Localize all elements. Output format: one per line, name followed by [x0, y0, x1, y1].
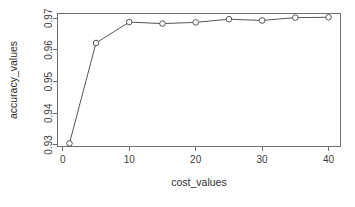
data-point: [226, 16, 232, 22]
data-point: [326, 14, 332, 20]
y-tick-label: 0.96: [43, 40, 54, 60]
y-tick-label: 0.95: [43, 71, 54, 91]
y-tick-label: 0.97: [43, 8, 54, 28]
y-axis-title: accuracy_values: [7, 41, 19, 119]
data-point: [160, 21, 166, 27]
y-tick-label: 0.93: [43, 135, 54, 155]
x-tick-label: 10: [124, 154, 136, 165]
x-tick-label: 30: [257, 154, 269, 165]
x-tick-label: 0: [60, 154, 66, 165]
data-point: [193, 20, 199, 26]
chart-container: 010203040 0.930.940.950.960.97 cost_valu…: [0, 0, 355, 207]
data-point: [67, 141, 73, 147]
data-point: [293, 15, 299, 21]
data-point: [126, 19, 132, 25]
data-point: [93, 40, 99, 46]
y-tick-label: 0.94: [43, 103, 54, 123]
accuracy-vs-cost-line-chart: 010203040 0.930.940.950.960.97 cost_valu…: [0, 0, 355, 207]
data-point: [259, 18, 265, 24]
x-tick-label: 20: [190, 154, 202, 165]
x-axis-title: cost_values: [171, 176, 226, 188]
x-tick-label: 40: [323, 154, 335, 165]
